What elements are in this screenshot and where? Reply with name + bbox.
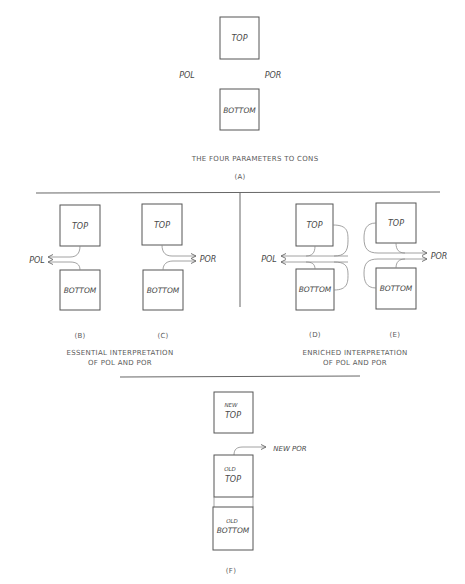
horizontal-divider-bottom: [120, 376, 360, 377]
panel-d-label: (D): [309, 331, 321, 339]
panel-a-label: (A): [234, 173, 245, 181]
old-bottom-label-line2: BOTTOM: [217, 526, 250, 535]
panel-e-label: (E): [390, 331, 401, 339]
pol-arrow-from-top: [281, 246, 348, 256]
por-label: POR: [431, 252, 448, 261]
old-top-label-line1: OLD: [224, 466, 236, 472]
por-arrow-from-top: [378, 243, 427, 253]
essential-caption-line2: OF POL AND POR: [88, 359, 152, 367]
top-box-label: TOP: [388, 219, 404, 228]
por-label: POR: [265, 71, 282, 80]
top-box-label: TOP: [154, 221, 170, 230]
por-arrow-from-bottom: [378, 259, 427, 268]
old-top-label-line2: TOP: [225, 475, 241, 484]
panel-b-label: (B): [74, 332, 85, 340]
pol-arrow-from-bottom: [48, 262, 80, 270]
top-box-label: TOP: [306, 221, 322, 230]
bottom-box-label: BOTTOM: [147, 286, 180, 295]
panel-f-label: (F): [226, 567, 236, 575]
panel-d: TOP BOTTOM POL (D): [261, 204, 348, 339]
cons-parameters-diagram: TOP POL POR BOTTOM THE FOUR PARAMETERS T…: [0, 0, 465, 584]
essential-caption-line1: ESSENTIAL INTERPRETATION: [67, 349, 174, 357]
panel-c: TOP BOTTOM POR (C): [142, 204, 216, 340]
top-loop: [333, 225, 348, 256]
bottom-loop: [334, 262, 348, 290]
pol-arrow-from-top: [48, 246, 80, 257]
panel-b: TOP BOTTOM POL (B): [29, 205, 100, 340]
por-arrow-from-top: [162, 245, 196, 256]
pol-label: POL: [179, 71, 195, 80]
por-label: POR: [200, 255, 217, 264]
panel-f: NEW TOP NEW POR OLD TOP OLD BOTTOM (F): [213, 392, 307, 575]
top-box-label: TOP: [72, 222, 88, 231]
pol-label: POL: [29, 256, 45, 265]
new-por-arrow: [234, 447, 266, 455]
bottom-box-label: BOTTOM: [380, 284, 413, 293]
panel-a: TOP POL POR BOTTOM THE FOUR PARAMETERS T…: [179, 17, 318, 181]
panel-e: TOP BOTTOM POR (E): [364, 203, 447, 339]
bottom-box-label: BOTTOM: [299, 285, 332, 294]
new-top-label-line2: TOP: [225, 411, 241, 420]
panel-c-label: (C): [157, 332, 168, 340]
new-por-label: NEW POR: [273, 445, 307, 453]
bottom-box-label: BOTTOM: [223, 106, 256, 115]
old-bottom-label-line1: OLD: [226, 518, 238, 524]
new-top-label-line1: NEW: [224, 402, 238, 408]
horizontal-divider-top: [36, 192, 440, 193]
panel-a-caption: THE FOUR PARAMETERS TO CONS: [191, 155, 319, 163]
bottom-box-label: BOTTOM: [64, 286, 97, 295]
enriched-caption-line2: OF POL AND POR: [323, 359, 387, 367]
top-box-label: TOP: [231, 34, 247, 43]
pol-arrow-from-bottom: [281, 262, 348, 269]
enriched-caption-line1: ENRICHED INTERPRETATION: [302, 349, 407, 357]
por-arrow-from-bottom: [163, 261, 196, 270]
pol-label: POL: [261, 255, 277, 264]
